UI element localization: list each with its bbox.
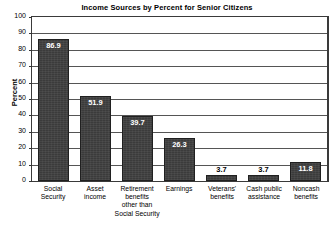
y-axis-tick-label: 30 bbox=[0, 127, 26, 134]
bar-value-label: 51.9 bbox=[80, 99, 111, 107]
y-axis-tick-label: 20 bbox=[0, 143, 26, 150]
y-axis-tick bbox=[29, 181, 32, 182]
category-label-line: benefits bbox=[278, 193, 334, 201]
bar-group[interactable]: 3.7 bbox=[248, 17, 279, 181]
x-axis-category-labels: SocialSecurityAssetincomeRetirementbenef… bbox=[32, 185, 327, 229]
chart-title: Income Sources by Percent for Senior Cit… bbox=[0, 3, 334, 12]
bar[interactable] bbox=[38, 39, 69, 181]
bar[interactable] bbox=[80, 96, 111, 181]
y-axis-tick-label: 100 bbox=[0, 12, 26, 19]
category-label: Noncashbenefits bbox=[278, 185, 334, 201]
bar-value-label: 86.9 bbox=[38, 42, 69, 50]
bar-group[interactable]: 39.7 bbox=[122, 17, 153, 181]
y-axis-tick-label: 50 bbox=[0, 94, 26, 101]
bar-group[interactable]: 11.8 bbox=[290, 17, 321, 181]
bar-group[interactable]: 86.9 bbox=[38, 17, 69, 181]
bar-value-label: 26.3 bbox=[164, 141, 195, 149]
bar-group[interactable]: 26.3 bbox=[164, 17, 195, 181]
y-axis-tick-label: 80 bbox=[0, 45, 26, 52]
y-axis-tick-label: 70 bbox=[0, 61, 26, 68]
category-label-line: other than bbox=[109, 201, 165, 209]
bar-value-label: 11.8 bbox=[290, 165, 321, 173]
y-axis-tick-label: 10 bbox=[0, 160, 26, 167]
y-axis-tick-label: 90 bbox=[0, 28, 26, 35]
bar-value-label: 3.7 bbox=[248, 166, 279, 174]
y-axis-tick-label: 40 bbox=[0, 110, 26, 117]
bars-layer: 86.951.939.726.33.73.711.8 bbox=[32, 17, 327, 181]
bar-group[interactable]: 3.7 bbox=[206, 17, 237, 181]
bar-value-label: 39.7 bbox=[122, 119, 153, 127]
category-label-line: Social Security bbox=[109, 210, 165, 218]
category-label-line: Noncash bbox=[278, 185, 334, 193]
y-axis-tick-label: 0 bbox=[0, 176, 26, 183]
bar-group[interactable]: 51.9 bbox=[80, 17, 111, 181]
y-axis-tick-label: 60 bbox=[0, 78, 26, 85]
bar-value-label: 3.7 bbox=[206, 166, 237, 174]
bar-chart: Income Sources by Percent for Senior Cit… bbox=[0, 0, 334, 229]
bar[interactable] bbox=[206, 175, 237, 181]
category-label-line: benefits bbox=[109, 193, 165, 201]
bar[interactable] bbox=[248, 175, 279, 181]
